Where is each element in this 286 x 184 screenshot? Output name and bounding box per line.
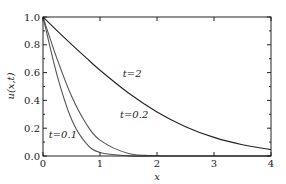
- x-tick-label: 0: [40, 158, 46, 169]
- y-tick-label: 1.0: [24, 12, 40, 23]
- x-tick-label: 2: [154, 158, 160, 169]
- y-tick-label: 0.0: [24, 151, 40, 162]
- plot-frame: [43, 17, 271, 156]
- curve-annotations: t=2t=0.2t=0.1: [49, 68, 149, 140]
- curves: [43, 17, 271, 156]
- curve-t-0-2: [43, 17, 271, 156]
- annotation-t-2: t=2: [123, 68, 142, 79]
- curve-t-0-1: [43, 17, 271, 156]
- annotation-t-0-1: t=0.1: [49, 129, 77, 140]
- chart: 01234 0.00.20.40.60.81.0 t=2t=0.2t=0.1 x…: [0, 0, 286, 184]
- x-tick-label: 1: [97, 158, 103, 169]
- x-axis-ticks: 01234: [40, 17, 274, 169]
- x-tick-label: 3: [211, 158, 217, 169]
- y-tick-label: 0.4: [24, 95, 40, 106]
- y-tick-label: 0.6: [24, 67, 40, 78]
- annotation-t-0-2: t=0.2: [120, 109, 148, 120]
- y-tick-label: 0.2: [24, 123, 40, 134]
- y-axis-label: u(x,t): [5, 72, 16, 99]
- x-axis-label: x: [154, 171, 160, 182]
- x-tick-label: 4: [268, 158, 274, 169]
- y-tick-label: 0.8: [24, 39, 40, 50]
